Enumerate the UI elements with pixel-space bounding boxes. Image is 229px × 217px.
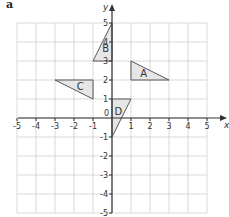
x-tick-label: -1 (89, 122, 97, 131)
x-tick-label: 2 (147, 122, 152, 131)
y-tick-label: -3 (100, 171, 108, 180)
x-tick-label: -2 (70, 122, 78, 131)
x-tick-label: 5 (204, 122, 209, 131)
x-tick-label: -3 (51, 122, 59, 131)
origin-label: 0 (104, 109, 109, 118)
y-tick-label: 5 (103, 19, 108, 28)
y-tick-label: -4 (100, 190, 108, 199)
y-axis-arrow-icon (109, 4, 115, 11)
y-tick-label: 1 (103, 95, 108, 104)
y-tick-label: -1 (100, 133, 108, 142)
y-axis-label: y (102, 2, 109, 12)
triangle-label: C (77, 81, 84, 92)
y-tick-label: -5 (100, 209, 108, 217)
x-tick-label: 4 (185, 122, 190, 131)
triangle-label: D (114, 106, 122, 117)
y-tick-label: 3 (103, 57, 108, 66)
coordinate-grid: ABCD -5-4-3-2-11234554321-1-2-3-4-5 x y … (0, 0, 229, 217)
y-tick-label: -2 (100, 152, 108, 161)
x-tick-label: 1 (128, 122, 133, 131)
x-axis-label: x (223, 120, 229, 130)
y-tick-label: 2 (103, 76, 108, 85)
x-tick-label: 3 (166, 122, 171, 131)
triangle-label: A (140, 68, 147, 79)
y-tick-label: 4 (103, 38, 108, 47)
x-tick-label: -4 (32, 122, 40, 131)
x-tick-label: -5 (13, 122, 21, 131)
